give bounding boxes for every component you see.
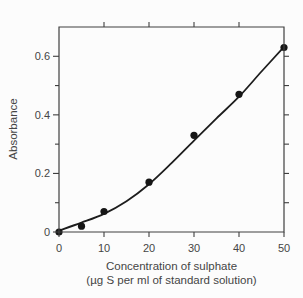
axis-layer bbox=[53, 22, 289, 237]
data-point bbox=[235, 91, 242, 98]
plot-layer bbox=[55, 44, 287, 236]
x-axis-tick-label: 0 bbox=[56, 242, 62, 254]
fit-curve bbox=[59, 47, 284, 231]
y-axis-title: Absorbance bbox=[7, 98, 19, 159]
x-axis-tick-label: 20 bbox=[143, 242, 155, 254]
y-axis-tick-label: 0 bbox=[44, 226, 50, 238]
x-axis-tick-label: 50 bbox=[278, 242, 290, 254]
data-point bbox=[190, 132, 197, 139]
axes-frame bbox=[59, 27, 284, 232]
y-axis-tick-label: 0.4 bbox=[35, 109, 50, 121]
x-axis-tick-label: 40 bbox=[233, 242, 245, 254]
x-axis-tick-label: 30 bbox=[188, 242, 200, 254]
data-point bbox=[78, 223, 85, 230]
x-axis-title-line2: (µg S per ml of standard solution) bbox=[86, 274, 256, 286]
figure: 0102030405000.20.40.6 Absorbance Concent… bbox=[0, 0, 303, 298]
data-point bbox=[145, 179, 152, 186]
data-point bbox=[100, 208, 107, 215]
tick-label-layer: 0102030405000.20.40.6 bbox=[35, 50, 290, 254]
y-axis-tick-label: 0.6 bbox=[35, 50, 50, 62]
x-axis-title-line1: Concentration of sulphate bbox=[106, 260, 237, 272]
x-axis-tick-label: 10 bbox=[98, 242, 110, 254]
y-axis-tick-label: 0.2 bbox=[35, 167, 50, 179]
calibration-chart: 0102030405000.20.40.6 Absorbance Concent… bbox=[0, 0, 303, 298]
